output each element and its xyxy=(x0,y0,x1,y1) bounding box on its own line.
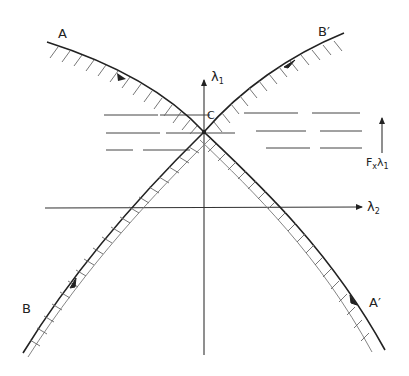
side-arrow-label: Fxλ1 xyxy=(366,157,389,171)
axis-label-lambda1: λ1 xyxy=(211,70,224,86)
label-a-prime: A′ xyxy=(369,296,381,309)
horizontal-axis xyxy=(45,207,362,208)
curve-a xyxy=(47,42,204,134)
arrow-a-prime-icon xyxy=(350,295,357,305)
label-c: C xyxy=(207,110,215,121)
label-a: A xyxy=(58,27,67,40)
dashed-lines xyxy=(104,113,362,150)
axis-label-lambda2: λ2 xyxy=(367,200,380,216)
center-point xyxy=(202,130,206,134)
curve-b xyxy=(23,132,210,357)
label-b-prime: B′ xyxy=(318,25,330,38)
label-b: B xyxy=(22,302,31,315)
curve-b-prime xyxy=(204,33,344,132)
curve-a-prime xyxy=(200,132,385,352)
phase-diagram xyxy=(0,0,409,376)
